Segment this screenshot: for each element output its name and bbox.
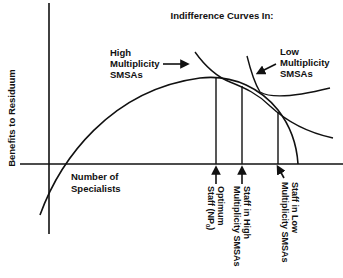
svg-text:Optimum: Optimum <box>216 186 226 226</box>
svg-text:Staff in High: Staff in High <box>242 186 252 239</box>
x-axis-label: Number of Specialists <box>71 171 121 194</box>
indifference-curve-diagram: Indifference Curves In: Benefits to Resi… <box>0 0 343 278</box>
high-multiplicity-label: High Multiplicity SMSAs <box>110 47 162 80</box>
chart-title: Indifference Curves In: <box>171 10 274 21</box>
low-multiplicity-arrow-icon <box>260 64 276 72</box>
low-staff-label: Staff in Low Multiplicity SMSAs <box>280 182 300 263</box>
svg-text:Staff in Low: Staff in Low <box>290 182 300 234</box>
svg-text:Staff (NP0): Staff (NP0) <box>205 186 216 230</box>
benefit-curve <box>40 77 298 215</box>
svg-text:Multiplicity SMSAs: Multiplicity SMSAs <box>280 182 290 263</box>
high-staff-label: Staff in High Multiplicity SMSAs <box>232 186 252 267</box>
low-multiplicity-label: Low Multiplicity SMSAs <box>280 46 332 79</box>
optimum-staff-label: Optimum Staff (NP0) <box>205 186 226 230</box>
y-axis-label: Benefits to Residuum <box>6 69 17 167</box>
svg-text:Multiplicity SMSAs: Multiplicity SMSAs <box>232 186 242 267</box>
low-staff-arrow-icon <box>279 169 284 178</box>
